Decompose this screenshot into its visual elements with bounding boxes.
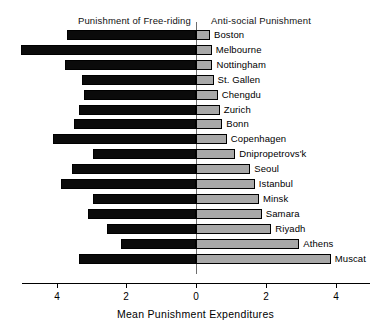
city-label: Seoul	[254, 163, 279, 175]
chart-row: Zurich	[0, 103, 391, 118]
plot-area: BostonMelbourneNottinghamSt. GallenCheng…	[0, 28, 391, 268]
bar-punishment-free-riding	[79, 254, 196, 264]
chart-row: Melbourne	[0, 43, 391, 58]
right-panel-header: Anti-social Punishment	[211, 15, 311, 26]
chart-row: Nottingham	[0, 58, 391, 73]
bar-punishment-free-riding	[84, 90, 196, 100]
chart-row: Boston	[0, 28, 391, 43]
bar-punishment-free-riding	[21, 45, 196, 55]
x-axis-tick-label: 4	[54, 291, 60, 302]
bar-anti-social-punishment	[196, 194, 259, 204]
chart-row: Dnipropetrovs'k	[0, 147, 391, 162]
bar-anti-social-punishment	[196, 30, 210, 40]
x-axis-tick	[57, 283, 58, 288]
city-label: Minsk	[263, 193, 288, 205]
city-label: Melbourne	[216, 44, 262, 56]
bar-anti-social-punishment	[196, 134, 227, 144]
city-label: Muscat	[335, 253, 366, 265]
bar-anti-social-punishment	[196, 60, 212, 70]
bar-anti-social-punishment	[196, 179, 255, 189]
bar-anti-social-punishment	[196, 149, 235, 159]
bar-punishment-free-riding	[61, 179, 196, 189]
city-label: Chengdu	[222, 89, 261, 101]
chart-row: Chengdu	[0, 88, 391, 103]
bar-anti-social-punishment	[196, 164, 250, 174]
bar-punishment-free-riding	[82, 75, 196, 85]
bar-anti-social-punishment	[196, 209, 262, 219]
bar-punishment-free-riding	[107, 224, 196, 234]
chart-row: Riyadh	[0, 222, 391, 237]
chart-row: Athens	[0, 237, 391, 252]
bar-punishment-free-riding	[88, 209, 197, 219]
bar-punishment-free-riding	[65, 60, 196, 70]
chart-row: Copenhagen	[0, 132, 391, 147]
x-axis-tick-label: 2	[123, 291, 129, 302]
bar-anti-social-punishment	[196, 45, 212, 55]
chart-row: Bonn	[0, 117, 391, 132]
city-label: Copenhagen	[231, 133, 286, 145]
chart-row: Minsk	[0, 192, 391, 207]
x-axis-tick	[196, 283, 197, 288]
bar-punishment-free-riding	[79, 105, 196, 115]
bar-punishment-free-riding	[67, 30, 197, 40]
x-axis-tick-label: 0	[193, 291, 199, 302]
city-label: Bonn	[226, 118, 249, 130]
city-label: Athens	[303, 238, 333, 250]
bar-anti-social-punishment	[196, 224, 271, 234]
chart-row: St. Gallen	[0, 73, 391, 88]
city-label: St. Gallen	[218, 74, 261, 86]
bar-punishment-free-riding	[121, 239, 196, 249]
city-label: Riyadh	[275, 223, 305, 235]
bar-punishment-free-riding	[74, 119, 197, 129]
bar-anti-social-punishment	[196, 90, 218, 100]
punishment-expenditures-chart: Punishment of Free-riding Anti-social Pu…	[0, 0, 391, 330]
bar-punishment-free-riding	[93, 149, 196, 159]
x-axis-tick	[126, 283, 127, 288]
x-axis-tick	[266, 283, 267, 288]
bar-anti-social-punishment	[196, 75, 214, 85]
city-label: Samara	[266, 208, 300, 220]
bar-anti-social-punishment	[196, 239, 299, 249]
bar-punishment-free-riding	[53, 134, 197, 144]
city-label: Istanbul	[259, 178, 293, 190]
bar-punishment-free-riding	[93, 194, 196, 204]
bar-anti-social-punishment	[196, 105, 220, 115]
city-label: Dnipropetrovs'k	[239, 148, 306, 160]
left-panel-header: Punishment of Free-riding	[78, 15, 191, 26]
city-label: Nottingham	[216, 59, 266, 71]
chart-row: Istanbul	[0, 177, 391, 192]
chart-row: Samara	[0, 207, 391, 222]
x-axis-tick-label: 2	[263, 291, 269, 302]
chart-row: Seoul	[0, 162, 391, 177]
bar-anti-social-punishment	[196, 119, 222, 129]
city-label: Boston	[214, 29, 244, 41]
x-axis-tick-label: 4	[333, 291, 339, 302]
bar-anti-social-punishment	[196, 254, 331, 264]
x-axis-tick	[336, 283, 337, 288]
city-label: Zurich	[224, 104, 251, 116]
x-axis-label: Mean Punishment Expenditures	[0, 308, 391, 320]
chart-row: Muscat	[0, 252, 391, 267]
bar-punishment-free-riding	[72, 164, 196, 174]
